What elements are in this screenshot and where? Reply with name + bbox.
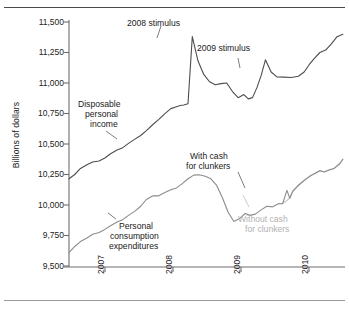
y-axis-ticks	[64, 22, 69, 266]
annotation-2008-stimulus: 2008 stimulus	[127, 19, 180, 29]
leader-line-pce	[108, 213, 116, 219]
leader-line-disposable-income	[106, 131, 117, 139]
axis-lines	[64, 20, 345, 267]
annotation-2009-stimulus: 2009 stimulus	[197, 44, 250, 54]
chart-svg	[0, 0, 349, 310]
x-axis-ticks	[105, 267, 309, 272]
plot-area	[0, 0, 349, 310]
annotation-pce-line3: expenditures	[109, 242, 158, 252]
series-lines	[69, 34, 343, 252]
annotation-without-cash-line2: for clunkers	[245, 225, 289, 235]
leader-line-with-cash	[238, 172, 245, 188]
leader-line-2009-stimulus	[238, 58, 240, 68]
annotation-with-cash-line2: for clunkers	[186, 162, 230, 172]
leader-lines	[106, 26, 249, 219]
series-line-without-cash-for-clunkers	[278, 159, 343, 204]
chart-figure: Billions of dollars 11,500 11,250 11,000…	[0, 0, 349, 310]
annotation-disposable-income-line3: income	[90, 120, 118, 130]
leader-line-without-cash	[243, 195, 249, 207]
